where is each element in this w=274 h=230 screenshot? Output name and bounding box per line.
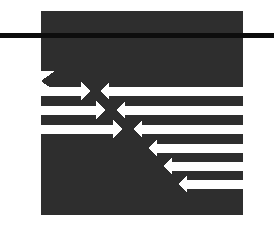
- logo-canvas: Arrow Interchange Logo Dark square mark …: [0, 0, 274, 230]
- horizontal-rule: [0, 33, 274, 38]
- arrow-interchange-graphic: [0, 0, 274, 230]
